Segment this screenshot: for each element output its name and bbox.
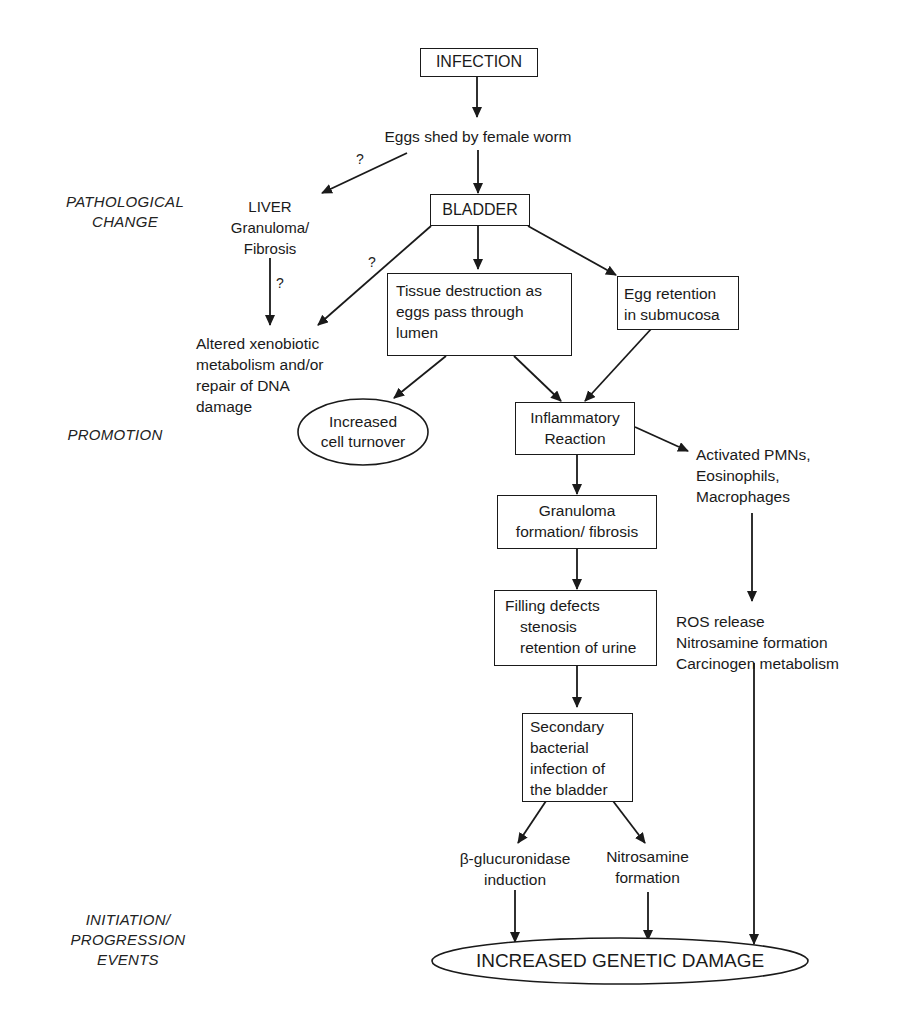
- node-ros-release: ROS release Nitrosamine formation Carcin…: [676, 611, 876, 674]
- question-mark-bladder-altered: ?: [368, 254, 376, 270]
- node-altered-xenobiotic: Altered xenobiotic metabolism and/or rep…: [196, 333, 366, 417]
- arrow-eggretention-to-inflammatory: [585, 328, 652, 401]
- node-infection: INFECTION: [420, 48, 538, 77]
- node-granuloma-formation: Granuloma formation/ fibrosis: [497, 495, 657, 549]
- node-bladder: BLADDER: [430, 194, 530, 226]
- node-nitrosamine-formation: Nitrosamine formation: [590, 846, 705, 888]
- node-increased-genetic-damage: INCREASED GENETIC DAMAGE: [440, 949, 800, 973]
- arrow-bladder-to-eggretention: [528, 226, 616, 275]
- node-eggs-shed: Eggs shed by female worm: [373, 126, 583, 147]
- arrow-tissue-to-turnover: [394, 356, 446, 398]
- node-secondary-infection: Secondary bacterial infection of the bla…: [522, 713, 633, 802]
- stage-promotion: PROMOTION: [50, 425, 180, 445]
- stage-initiation-progression: INITIATION/ PROGRESSION EVENTS: [48, 910, 208, 970]
- node-liver: LIVER Granuloma/ Fibrosis: [210, 196, 330, 259]
- arrow-eggs-to-liver: [322, 153, 407, 193]
- arrow-secondary-to-beta: [518, 801, 546, 843]
- node-activated-cells: Activated PMNs, Eosinophils, Macrophages: [696, 444, 846, 507]
- node-tissue-destruction: Tissue destruction as eggs pass through …: [387, 273, 572, 356]
- arrow-secondary-to-nitrosamine: [613, 801, 645, 843]
- node-inflammatory-reaction: Inflammatory Reaction: [515, 402, 635, 455]
- question-mark-eggs-liver: ?: [356, 151, 364, 167]
- arrow-tissue-to-inflammatory: [514, 356, 561, 401]
- node-increased-cell-turnover: Increased cell turnover: [298, 412, 428, 452]
- node-filling-defects: Filling defects stenosis retention of ur…: [494, 590, 657, 666]
- node-egg-retention: Egg retention in submucosa: [617, 276, 739, 330]
- arrow-inflammatory-to-activated: [635, 427, 688, 451]
- node-beta-glucuronidase: β-glucuronidase induction: [440, 848, 590, 890]
- stage-pathological-change: PATHOLOGICAL CHANGE: [40, 192, 210, 232]
- question-mark-liver-altered: ?: [276, 275, 284, 291]
